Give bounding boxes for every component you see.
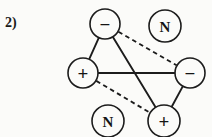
- edges-layer: [89, 32, 182, 113]
- node-label-top-minus: −: [100, 14, 111, 35]
- node-top-minus: −: [90, 9, 120, 39]
- node-label-left-plus: +: [78, 63, 89, 84]
- node-bottom-plus: +: [148, 105, 180, 137]
- node-label-bottom-left-n: N: [103, 114, 114, 130]
- edge-right-minus-bottom-plus: [172, 87, 183, 107]
- node-right-minus: −: [175, 58, 205, 88]
- node-bottom-left-n: N: [92, 105, 124, 137]
- figure-root: 2) −N+−N+: [0, 0, 212, 137]
- node-top-right-n: N: [149, 10, 181, 42]
- charge-interaction-diagram: −N+−N+: [0, 0, 212, 137]
- node-label-bottom-plus: +: [159, 111, 170, 132]
- node-label-top-right-n: N: [160, 19, 171, 35]
- node-label-right-minus: −: [185, 63, 196, 84]
- node-left-plus: +: [68, 58, 98, 88]
- edge-top-minus-left-plus: [89, 38, 98, 59]
